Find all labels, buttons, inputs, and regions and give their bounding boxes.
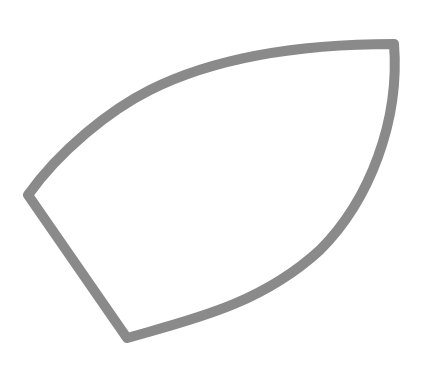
iron-outline-path xyxy=(28,44,395,338)
outline-shape xyxy=(0,0,430,366)
drawing-canvas xyxy=(0,0,430,366)
